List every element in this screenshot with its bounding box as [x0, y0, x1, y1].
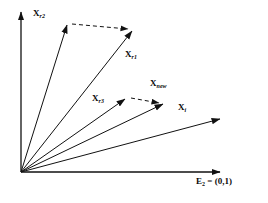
vector-x-r1: [21, 31, 132, 172]
label-x-i-subscript: i: [185, 107, 187, 113]
difference-vector-r3-new: [131, 98, 159, 103]
vector-diagram-figure: Xr2 Xr1 Xr3 Xnew Xi E2 = (0,1): [0, 0, 268, 203]
vector-x-r3: [21, 99, 125, 172]
axis-label-e2: E2 = (0,1): [196, 177, 232, 187]
label-x-r1-base: X: [125, 49, 132, 59]
label-x-r3-subscript: r3: [99, 98, 104, 104]
label-x-r1-subscript: r1: [132, 54, 137, 60]
label-x-r2: Xr2: [33, 9, 45, 19]
label-x-new: Xnew: [150, 79, 167, 89]
label-x-new-subscript: new: [157, 83, 167, 89]
axis-label-e2-value: = (0,1): [205, 176, 232, 186]
label-x-r1: Xr1: [125, 50, 137, 60]
label-x-r2-subscript: r2: [40, 13, 45, 19]
label-x-new-base: X: [150, 78, 157, 88]
label-x-r3: Xr3: [92, 94, 104, 104]
label-x-i-base: X: [178, 102, 185, 112]
vector-x-r2: [21, 25, 67, 172]
label-x-r2-base: X: [33, 8, 40, 18]
vector-x-i: [21, 119, 220, 172]
vector-x-new: [21, 104, 163, 172]
difference-vector-r2-r1: [72, 24, 128, 29]
label-x-i: Xi: [178, 103, 186, 113]
label-x-r3-base: X: [92, 93, 99, 103]
diagram-canvas: [0, 0, 268, 203]
